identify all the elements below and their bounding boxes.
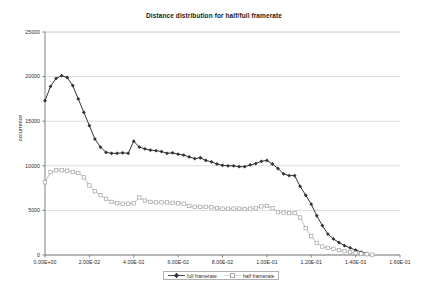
series-full-framerate [43,74,369,255]
chart-container: Distance distribution for half/full fram… [0,0,428,294]
series-half-framerate [43,169,374,257]
legend-item-half-framerate[interactable]: half framerate [224,272,275,279]
y-tick-label: 20000 [6,73,40,79]
plot-area [0,0,428,294]
x-tick-label: 2.00E-02 [66,259,112,265]
x-tick-label: 0.00E+00 [22,259,68,265]
x-tick-label: 1.20E-01 [288,259,334,265]
y-tick-label: 25000 [6,29,40,35]
x-tick-label: 4.00E-02 [111,259,157,265]
chart-legend: full framerate half framerate [163,271,279,280]
y-tick-label: 10000 [6,163,40,169]
legend-item-full-framerate[interactable]: full framerate [168,272,217,279]
x-axis-tickmarks [43,32,401,258]
x-tick-label: 6.00E-02 [155,259,201,265]
x-tick-label: 1.40E-01 [333,259,379,265]
data-series-layer [43,74,374,257]
y-tick-label: 15000 [6,118,40,124]
x-tick-label: 1.00E-01 [244,259,290,265]
x-tick-label: 1.60E-01 [377,259,423,265]
legend-label-half-framerate: half framerate [243,273,275,279]
x-tick-label: 8.00E-02 [200,259,246,265]
legend-marker-open-square-icon [224,272,241,279]
legend-marker-filled-diamond-icon [168,272,185,279]
legend-label-full-framerate: full framerate [187,273,217,279]
y-tick-label: 5000 [6,207,40,213]
y-tick-label: 0 [6,252,40,258]
